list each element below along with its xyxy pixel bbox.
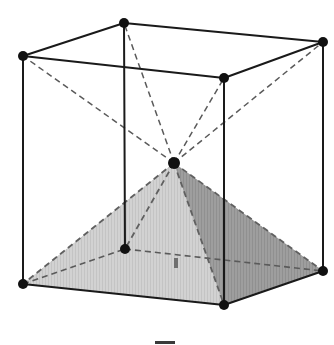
scan-speck <box>174 258 178 268</box>
ray-apex-C <box>174 42 323 163</box>
vertex-top-front-right <box>318 37 328 47</box>
vertex-top-back-right <box>119 18 129 28</box>
vertex-bottom-front-left <box>219 300 229 310</box>
vertex-bottom-back-left <box>18 279 28 289</box>
top-edge-C-D <box>224 42 323 78</box>
ray-apex-D <box>174 78 224 163</box>
ray-apex-A <box>23 56 174 163</box>
vertex-bottom-back-right <box>120 244 130 254</box>
ray-apex-B <box>124 23 174 163</box>
top-edge-A-B <box>23 23 124 56</box>
vertical-edge-B-F <box>124 23 125 249</box>
vertex-top-back-left <box>18 51 28 61</box>
cropped-caption-mark <box>155 341 175 344</box>
cube-with-inscribed-pyramid-diagram <box>0 0 334 345</box>
top-edge-B-C <box>124 23 323 42</box>
vertex-pyramid-apex <box>168 157 180 169</box>
vertex-bottom-front-right <box>318 266 328 276</box>
vertex-top-front-left <box>219 73 229 83</box>
apex-to-top-rays <box>23 23 323 163</box>
figure-root <box>0 0 334 345</box>
